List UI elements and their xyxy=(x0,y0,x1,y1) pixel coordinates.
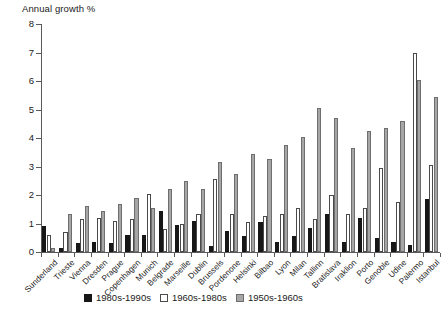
bar-group xyxy=(340,24,357,252)
x-axis-tick xyxy=(290,253,291,257)
x-axis-tick xyxy=(91,253,92,257)
bar xyxy=(118,204,122,252)
x-axis-tick xyxy=(390,253,391,257)
plot-area xyxy=(41,24,440,252)
x-axis-tick xyxy=(274,253,275,257)
x-axis-tick xyxy=(357,253,358,257)
bar-group xyxy=(324,24,341,252)
bar-group xyxy=(174,24,191,252)
bar-group xyxy=(274,24,291,252)
bar-chart: Annual growth % 012345678 1980s-1990s196… xyxy=(0,0,447,318)
bar xyxy=(351,148,355,252)
bar xyxy=(68,214,72,252)
bar-group xyxy=(257,24,274,252)
legend-item: 1960s-1980s xyxy=(160,292,227,303)
bar xyxy=(301,137,305,252)
y-axis-label-wrap: 2 xyxy=(16,195,34,196)
y-axis-tick-label: 0 xyxy=(20,247,34,257)
legend-label: 1960s-1980s xyxy=(172,292,227,303)
y-axis-tick-label: 4 xyxy=(20,133,34,143)
black-square-icon xyxy=(84,294,92,302)
bar xyxy=(367,131,371,252)
y-axis-label-wrap: 1 xyxy=(16,224,34,225)
bar xyxy=(201,189,205,252)
bar-group xyxy=(407,24,424,252)
bar xyxy=(218,162,222,252)
y-axis-tick-label: 7 xyxy=(20,48,34,58)
bar-group xyxy=(357,24,374,252)
bar xyxy=(134,198,138,252)
bar xyxy=(234,174,238,252)
y-axis-label-wrap: 8 xyxy=(16,24,34,25)
bar-group xyxy=(124,24,141,252)
y-axis-tick-label: 3 xyxy=(20,162,34,172)
bar xyxy=(317,108,321,252)
bar xyxy=(417,80,421,252)
bar xyxy=(168,189,172,252)
x-axis-tick xyxy=(74,253,75,257)
bar-group xyxy=(423,24,440,252)
bar-group xyxy=(108,24,125,252)
bar xyxy=(400,121,404,252)
bar xyxy=(434,97,438,252)
y-axis-tick-label: 1 xyxy=(20,219,34,229)
bar-group xyxy=(224,24,241,252)
bar xyxy=(334,118,338,252)
y-axis-label-wrap: 0 xyxy=(16,252,34,253)
y-axis-label-wrap: 4 xyxy=(16,138,34,139)
bar xyxy=(151,208,155,252)
y-axis-label-wrap: 7 xyxy=(16,53,34,54)
bar-group xyxy=(290,24,307,252)
bar xyxy=(251,154,255,252)
gray-square-icon xyxy=(236,294,244,302)
x-axis-tick xyxy=(191,253,192,257)
bar-group xyxy=(390,24,407,252)
bar-group xyxy=(374,24,391,252)
y-axis-tick-label: 5 xyxy=(20,105,34,115)
y-axis-title: Annual growth % xyxy=(22,3,95,14)
bar xyxy=(384,128,388,252)
x-axis-tick xyxy=(324,253,325,257)
bar-group xyxy=(157,24,174,252)
x-axis-tick xyxy=(58,253,59,257)
y-axis-tick-label: 8 xyxy=(20,19,34,29)
x-axis-tick xyxy=(41,253,42,257)
bar-group xyxy=(91,24,108,252)
y-axis-label-wrap: 5 xyxy=(16,110,34,111)
bar-group xyxy=(241,24,258,252)
y-axis-label-wrap: 3 xyxy=(16,167,34,168)
x-axis-tick xyxy=(157,253,158,257)
bar-group xyxy=(307,24,324,252)
bar xyxy=(101,211,105,252)
x-axis-tick xyxy=(407,253,408,257)
bar xyxy=(51,248,55,252)
x-axis-tick xyxy=(340,253,341,257)
y-axis-label-wrap: 6 xyxy=(16,81,34,82)
bar-group xyxy=(74,24,91,252)
x-axis-tick xyxy=(374,253,375,257)
bar-group xyxy=(141,24,158,252)
bar xyxy=(267,159,271,252)
legend-label: 1950s-1960s xyxy=(248,292,303,303)
bar-group xyxy=(207,24,224,252)
bar xyxy=(284,145,288,252)
legend-item: 1950s-1960s xyxy=(236,292,303,303)
bar-group xyxy=(41,24,58,252)
bar xyxy=(85,206,89,252)
x-axis-tick xyxy=(423,253,424,257)
x-axis-tick xyxy=(224,253,225,257)
chart-legend: 1980s-1990s1960s-1980s1950s-1960s xyxy=(84,292,303,303)
y-axis-tick-label: 6 xyxy=(20,76,34,86)
x-axis-tick xyxy=(440,253,441,257)
bar xyxy=(184,181,188,252)
x-axis-tick xyxy=(141,253,142,257)
legend-item: 1980s-1990s xyxy=(84,292,151,303)
x-axis-tick xyxy=(241,253,242,257)
x-axis-tick xyxy=(108,253,109,257)
x-axis-tick xyxy=(207,253,208,257)
x-axis-tick xyxy=(307,253,308,257)
x-axis-tick xyxy=(174,253,175,257)
white-square-icon xyxy=(160,294,168,302)
x-axis-tick xyxy=(257,253,258,257)
y-axis-tick-label: 2 xyxy=(20,190,34,200)
